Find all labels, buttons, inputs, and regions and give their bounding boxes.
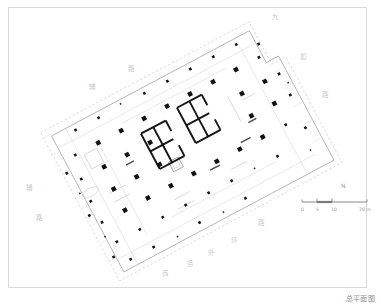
drawing-frame-border	[8, 7, 367, 288]
scale-tick-label-2: 10	[331, 207, 337, 212]
map-label-6: 路	[36, 215, 43, 222]
north-arrow-label: N	[341, 182, 346, 189]
sheet-title: 总平面图	[346, 293, 375, 303]
scale-bar-group: N 051020 m	[301, 182, 371, 218]
site-plan-sheet: 九如路路辅辅路路环外务商 N 051020 m 总平面图	[0, 0, 381, 307]
scale-bar-tick-labels: 051020 m	[301, 207, 371, 216]
map-label-2: 路	[322, 92, 329, 99]
scale-tick-label-3: 20 m	[359, 207, 371, 212]
map-label-8: 环	[231, 238, 238, 245]
scale-tick-label-1: 5	[316, 207, 319, 212]
map-label-5: 辅	[26, 185, 33, 192]
map-label-11: 商	[162, 271, 169, 278]
map-label-3: 路	[128, 66, 135, 73]
map-label-7: 路	[258, 220, 265, 227]
map-label-10: 务	[187, 261, 194, 268]
scale-bar-graphic	[301, 194, 371, 208]
map-label-0: 九	[272, 14, 279, 21]
map-label-1: 如	[300, 54, 307, 61]
scale-tick-label-0: 0	[301, 207, 304, 212]
map-label-4: 辅	[89, 84, 96, 91]
map-label-9: 外	[208, 250, 215, 257]
